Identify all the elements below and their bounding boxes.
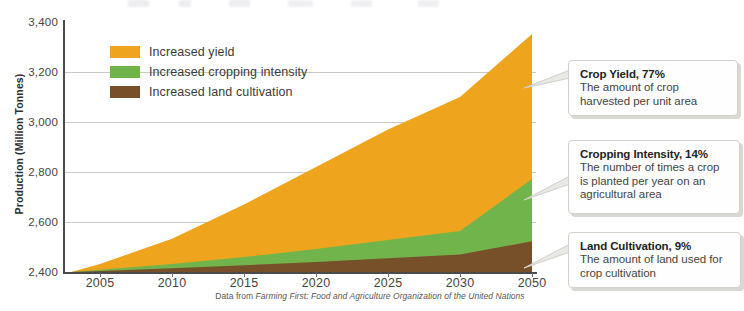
stacked-area-chart: Production (Million Tonnes) 3,400 3,200 … [0, 0, 744, 311]
x-tick-2010: 2010 [142, 276, 202, 290]
legend-label-land: Increased land cultivation [149, 85, 293, 99]
legend-item-increased-cropping-intensity: Increased cropping intensity [110, 62, 360, 81]
callout-line-1: The number of times a crop [580, 161, 730, 175]
x-tick-2030: 2030 [430, 276, 490, 290]
x-tick-2015: 2015 [214, 276, 274, 290]
callout-land-cultivation[interactable]: Land Cultivation, 9% The amount of land … [568, 232, 741, 288]
legend-swatch-land [110, 86, 140, 98]
callout-title-cropping-intensity: Cropping Intensity, 14% [580, 148, 730, 160]
callout-cropping-intensity[interactable]: Cropping Intensity, 14% The number of ti… [568, 140, 740, 214]
callout-line-1: The amount of crop [580, 81, 728, 95]
x-axis-line [63, 272, 537, 274]
callout-line-3: agricultural area [580, 188, 730, 202]
legend-item-increased-land-cultivation: Increased land cultivation [110, 82, 360, 101]
legend-label-intensity: Increased cropping intensity [149, 65, 307, 79]
chart-legend: Increased yield Increased cropping inten… [110, 42, 360, 102]
legend-item-increased-yield: Increased yield [110, 42, 360, 61]
y-tick-2400: 2,400 [20, 266, 58, 278]
callout-title-land-cultivation: Land Cultivation, 9% [580, 240, 731, 252]
callout-title-crop-yield: Crop Yield, 77% [580, 68, 728, 80]
legend-swatch-yield [110, 46, 140, 58]
legend-label-yield: Increased yield [149, 45, 235, 59]
callout-body-land-cultivation: The amount of land used for crop cultiva… [580, 253, 731, 280]
source-note: Data from Farming First: Food and Agricu… [160, 291, 580, 301]
callout-line-2: is planted per year on an [580, 175, 730, 189]
x-tick-2005: 2005 [70, 276, 130, 290]
callout-line-1: The amount of land used for [580, 253, 731, 267]
x-tick-2025: 2025 [358, 276, 418, 290]
y-tick-2600: 2,600 [20, 216, 58, 228]
callout-body-crop-yield: The amount of crop harvested per unit ar… [580, 81, 728, 108]
legend-swatch-intensity [110, 66, 140, 78]
callout-line-2: crop cultivation [580, 267, 731, 281]
callout-line-2: harvested per unit area [580, 95, 728, 109]
callout-body-cropping-intensity: The number of times a crop is planted pe… [580, 161, 730, 202]
source-prefix: Data from [215, 291, 255, 301]
x-tick-2020: 2020 [286, 276, 346, 290]
y-axis-tick-labels: 3,400 3,200 3,000 2,800 2,600 2,400 [16, 0, 58, 311]
source-title: Farming First: Food and Agriculture Orga… [256, 291, 525, 301]
y-tick-3200: 3,200 [20, 66, 58, 78]
y-tick-2800: 2,800 [20, 166, 58, 178]
y-tick-3000: 3,000 [20, 116, 58, 128]
y-tick-3400: 3,400 [20, 16, 58, 28]
y-axis-line [63, 20, 65, 274]
cropped-headline-bleed [120, 0, 540, 7]
callout-crop-yield[interactable]: Crop Yield, 77% The amount of crop harve… [568, 60, 738, 116]
